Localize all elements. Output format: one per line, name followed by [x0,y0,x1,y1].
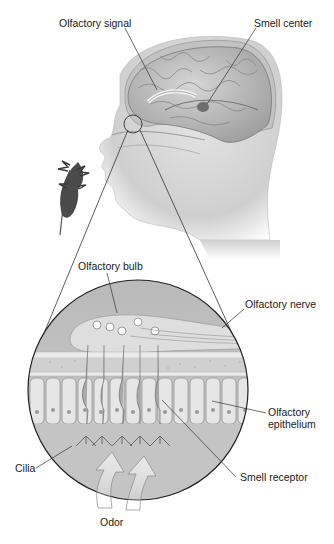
label-olfactory-epithelium-line1: Olfactory [268,406,310,418]
label-olfactory-nerve: Olfactory nerve [245,298,316,310]
label-olfactory-bulb: Olfactory bulb [78,260,143,272]
label-cilia: Cilia [15,462,35,474]
label-smell-center: Smell center [254,17,312,29]
head-illustration [100,36,282,260]
lavender-plant [58,161,89,235]
label-olfactory-signal: Olfactory signal [59,17,131,29]
olfactory-diagram [0,0,334,544]
label-smell-receptor: Smell receptor [240,471,308,483]
olfactory-bulb [70,315,260,353]
label-odor: Odor [100,516,123,528]
label-olfactory-epithelium-line2: epithelium [268,418,316,430]
